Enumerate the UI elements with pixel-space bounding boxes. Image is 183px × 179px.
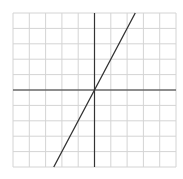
coordinate-plane <box>0 0 183 179</box>
